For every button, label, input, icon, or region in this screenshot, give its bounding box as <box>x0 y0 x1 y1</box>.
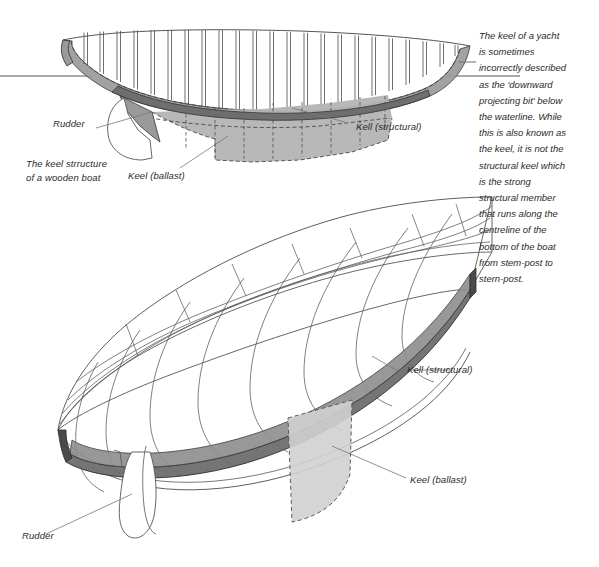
figure-caption-line1: The keel strructure <box>26 158 107 170</box>
label-keel-ballast-upper: Keel (ballast) <box>128 170 185 182</box>
note-line-6: this is also known as <box>479 125 599 141</box>
note-line-2: incorrectly described <box>479 60 599 76</box>
note-line-10: structural member <box>479 190 599 206</box>
sheer-line-lower <box>58 197 492 430</box>
structural-keel-band-lower <box>66 290 470 478</box>
note-line-15: stern-post. <box>479 271 599 287</box>
deck-ties-group-lower <box>126 204 466 356</box>
label-keel-structural-upper: Kell (structural) <box>356 121 422 133</box>
label-rudder-lower: Rudder <box>22 530 54 542</box>
figure-caption-line2: of a wooden boat <box>26 172 101 184</box>
explanatory-note: The keel of a yacht is sometimes incorre… <box>479 28 599 287</box>
label-rudder-upper: Rudder <box>53 118 85 130</box>
note-line-9: is the strong <box>479 174 599 190</box>
sheer-line-upper <box>63 30 470 46</box>
note-line-14: from stem-post to <box>479 255 599 271</box>
label-keel-ballast-lower: Keel (ballast) <box>410 474 467 486</box>
note-line-8: structural keel which <box>479 158 599 174</box>
note-line-11: that runs along the <box>479 206 599 222</box>
note-line-0: The keel of a yacht <box>479 28 599 44</box>
note-line-5: the waterline. While <box>479 109 599 125</box>
note-line-13: bottom of the boat <box>479 239 599 255</box>
note-line-7: the keel, it is not the <box>479 141 599 157</box>
note-line-4: projecting bit' below <box>479 93 599 109</box>
ballast-keel-fin-lower <box>288 400 352 522</box>
note-line-3: as the 'downward <box>479 77 599 93</box>
note-line-1: is sometimes <box>479 44 599 60</box>
label-keel-structural-lower: Kell (structural) <box>407 364 473 376</box>
stern-post-lower <box>470 268 476 298</box>
keel-structure-diagram: Rudder Kell (structural) Keel (ballast) … <box>0 0 599 567</box>
note-line-12: centreline of the <box>479 222 599 238</box>
